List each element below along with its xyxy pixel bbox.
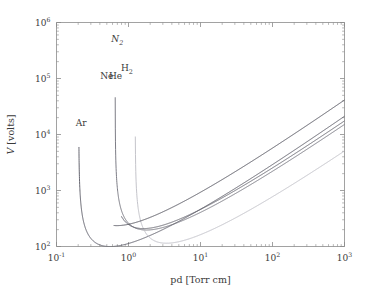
tick-label: 103 [337,251,352,263]
tick-label: 102 [35,240,50,252]
curve-ne [115,98,344,230]
y-axis-label: V [volts] [5,114,16,154]
tick-label: 102 [265,251,280,263]
chart-canvas: 10-1100101102103 102103104105106 ArNeHeH… [0,0,366,303]
x-axis-ticks: 10-1100101102103 [48,23,353,264]
y-axis-title: V [volts] [5,114,16,154]
y-axis-ticks: 102103104105106 [35,16,344,252]
tick-label: 105 [35,72,50,84]
curve-label-ar: Ar [75,118,87,128]
tick-label: 104 [35,128,50,140]
tick-label: 100 [121,251,136,263]
curve-ar [79,116,345,246]
curve-h2 [122,121,345,229]
curve-label-n2: N2 [110,34,123,47]
x-axis-label: pd [Torr cm] [170,274,230,285]
curve-label-h2: H2 [121,63,133,76]
paschen-curve-figure: 10-1100101102103 102103104105106 ArNeHeH… [0,0,366,303]
x-axis-title: pd [Torr cm] [170,274,230,285]
tick-label: 106 [35,16,50,28]
curve-annotations: ArNeHeH2N2 [75,34,133,128]
curve-series [79,98,345,247]
tick-label: 10-1 [48,251,66,263]
plot-frame [57,23,345,247]
tick-label: 101 [193,251,208,263]
curve-n2 [114,100,344,226]
tick-label: 103 [35,184,50,196]
